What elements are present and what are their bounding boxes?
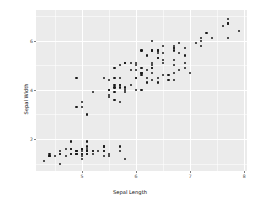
x-axis-tick-mark — [190, 171, 191, 173]
scatter-point — [81, 148, 83, 150]
scatter-point — [119, 77, 121, 79]
scatter-point — [75, 106, 77, 108]
scatter-point — [113, 99, 115, 101]
scatter-point — [119, 86, 121, 88]
scatter-point — [162, 52, 164, 54]
scatter-point — [43, 160, 45, 162]
scatter-point — [103, 77, 105, 79]
scatter-point — [70, 140, 72, 142]
y-axis-tick-mark — [34, 90, 36, 91]
scatter-point — [65, 155, 67, 157]
scatter-point — [119, 64, 121, 66]
scatter-point — [119, 145, 121, 147]
scatter-point — [92, 91, 94, 93]
scatter-point — [162, 45, 164, 47]
scatter-point — [81, 101, 83, 103]
scatter-point — [75, 77, 77, 79]
x-axis-tick-mark — [136, 171, 137, 173]
scatter-point — [146, 77, 148, 79]
scatter-point — [173, 79, 175, 81]
scatter-point — [238, 30, 240, 32]
scatter-point — [108, 79, 110, 81]
scatter-point — [146, 54, 148, 56]
x-axis-tick-label: 8 — [243, 174, 246, 179]
scatter-point — [124, 62, 126, 64]
scatter-point — [108, 89, 110, 91]
scatter-point — [130, 69, 132, 71]
scatter-point — [130, 62, 132, 64]
scatter-point — [70, 153, 72, 155]
plot-panel — [36, 10, 247, 171]
x-axis-tick-mark — [82, 171, 83, 173]
scatter-point — [97, 150, 99, 152]
scatter-point — [75, 153, 77, 155]
scatter-point — [113, 86, 115, 88]
scatter-point — [157, 57, 159, 59]
scatter-point — [119, 150, 121, 152]
scatter-point — [113, 84, 115, 86]
scatter-point — [157, 81, 159, 83]
x-axis-tick-label: 5 — [81, 174, 84, 179]
scatter-point — [200, 45, 202, 47]
scatter-point — [54, 155, 56, 157]
scatter-point — [189, 72, 191, 74]
scatter-point — [151, 40, 153, 42]
scatter-point — [65, 148, 67, 150]
scatter-point — [227, 22, 229, 24]
scatter-point — [103, 155, 105, 157]
scatter-point — [103, 150, 105, 152]
scatter-point — [146, 81, 148, 83]
scatter-point — [81, 153, 83, 155]
x-axis-tick-label: 6 — [135, 174, 138, 179]
scatter-point — [184, 67, 186, 69]
scatter-point — [151, 49, 153, 51]
x-axis-title: Sepal Length — [0, 189, 260, 195]
y-axis-tick-mark — [34, 139, 36, 140]
scatter-point — [146, 69, 148, 71]
y-axis-title: Sepal Width — [23, 69, 29, 129]
scatter-point — [184, 54, 186, 56]
x-axis-tick-mark — [244, 171, 245, 173]
scatter-point — [173, 59, 175, 61]
scatter-point — [167, 74, 169, 76]
scatter-point — [92, 153, 94, 155]
scatter-point — [162, 62, 164, 64]
scatter-point — [178, 69, 180, 71]
scatter-point — [108, 155, 110, 157]
scatter-point — [205, 32, 207, 34]
y-axis-tick-label: 2 — [24, 137, 33, 142]
scatter-point — [135, 77, 137, 79]
scatter-point — [124, 158, 126, 160]
scatter-point — [140, 67, 142, 69]
scatter-point — [184, 47, 186, 49]
scatter-point — [113, 67, 115, 69]
scatter-point — [108, 96, 110, 98]
scatter-point — [167, 79, 169, 81]
scatter-point — [48, 155, 50, 157]
scatter-point — [86, 148, 88, 150]
y-axis-tick-mark — [34, 41, 36, 42]
scatter-point — [140, 49, 142, 51]
scatter-point — [130, 84, 132, 86]
scatter-point — [86, 153, 88, 155]
scatter-point — [124, 91, 126, 93]
scatter-point — [140, 74, 142, 76]
scatter-point — [119, 101, 121, 103]
scatter-point — [113, 77, 115, 79]
scatter-point — [195, 42, 197, 44]
scatter-point — [173, 64, 175, 66]
data-points — [36, 10, 247, 171]
scatter-point — [157, 52, 159, 54]
scatter-point — [211, 37, 213, 39]
scatter-point — [59, 153, 61, 155]
y-axis-tick-label: 6 — [24, 38, 33, 43]
scatter-point — [135, 64, 137, 66]
scatter-point — [81, 106, 83, 108]
scatter-point — [173, 49, 175, 51]
scatter-point — [70, 148, 72, 150]
scatter-point — [140, 89, 142, 91]
scatter-point — [135, 69, 137, 71]
scatter-point — [151, 79, 153, 81]
scatter-plot-figure: 5678246 Sepal Length Sepal Width — [0, 0, 260, 198]
scatter-point — [113, 91, 115, 93]
